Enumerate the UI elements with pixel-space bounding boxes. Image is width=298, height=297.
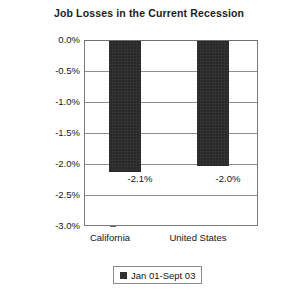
bar-chart-figure: Job Losses in the Current Recession (Per…: [0, 0, 298, 297]
category-label-united-states: United States: [146, 232, 250, 243]
bar-united-states: [197, 41, 229, 166]
y-tick-mark: [110, 226, 116, 227]
plot-area: [84, 40, 258, 226]
y-tick-label: -3.0%: [36, 220, 80, 231]
gridline: [85, 195, 257, 196]
y-tick-label: -2.5%: [36, 189, 80, 200]
y-tick-label: 0.0%: [36, 34, 80, 45]
y-tick-label: -1.5%: [36, 127, 80, 138]
y-tick-label: -0.5%: [36, 65, 80, 76]
legend-label: Jan 01-Sept 03: [131, 270, 195, 281]
chart-legend: Jan 01-Sept 03: [113, 266, 202, 284]
legend-swatch-icon: [120, 272, 127, 279]
chart-title: Job Losses in the Current Recession: [0, 7, 298, 19]
data-label-united-states: -2.0%: [176, 173, 280, 184]
y-axis-tick-labels: 0.0% -0.5% -1.0% -1.5% -2.0% -2.5% -3.0%: [32, 40, 80, 226]
y-tick-label: -1.0%: [36, 96, 80, 107]
bar-california: [109, 41, 141, 172]
y-tick-label: -2.0%: [36, 158, 80, 169]
